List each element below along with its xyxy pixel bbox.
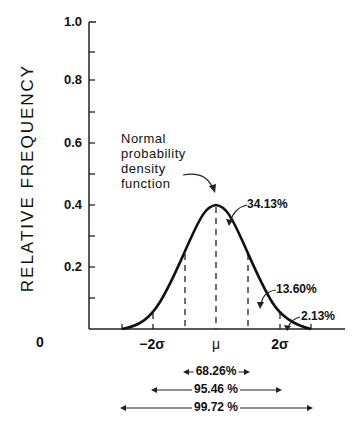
curve-label-line: density [121,161,186,176]
y-tick-label: 0.4 [42,197,82,212]
curve-label-arrow [183,174,213,188]
y-tick-label: 0.2 [42,259,82,274]
pct-label-34: 34.13% [247,197,288,211]
curve-label-line: Normal [121,131,186,146]
curve-annotation: Normal probability density function [121,131,186,191]
y-tick-label: 0.8 [42,72,82,87]
curve-label-line: function [121,176,186,191]
y-tick-label: 0.6 [42,135,82,150]
range-label-68: 68.26% [194,364,239,378]
x-label-minus-2-sigma: −2σ [139,336,165,352]
sigma-dashed-lines [153,207,280,329]
y-ticks [89,52,95,298]
range-label-99: 99.72 % [192,400,240,414]
x-label-mu: μ [212,336,220,352]
chart-canvas [0,0,360,432]
x-label-plus-2-sigma: 2σ [271,336,288,352]
pct-label-13: 13.60% [276,282,317,296]
pct-label-2: 2.13% [301,309,335,323]
y-axis-title: RELATIVE FREQUENCY [18,64,38,292]
y-tick-label: 1.0 [42,14,82,29]
curve-label-line: probability [121,146,186,161]
range-label-95: 95.46 % [192,382,240,396]
